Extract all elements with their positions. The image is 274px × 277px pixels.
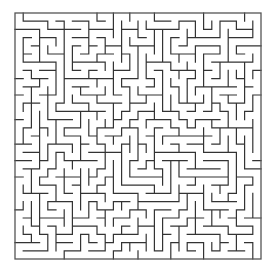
maze-board xyxy=(0,0,274,277)
maze-background xyxy=(0,0,274,277)
